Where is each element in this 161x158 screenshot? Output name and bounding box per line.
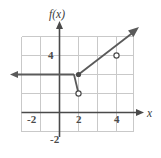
open-circle-lower-endpoint (76, 91, 81, 96)
x-axis-label: x (146, 107, 153, 119)
y-axis-label: f(x) (49, 8, 65, 21)
y-tick-label-neg2: -2 (50, 133, 60, 145)
graph-screenshot: -2 2 4 4 -2 f(x) x (0, 0, 161, 158)
x-tick-label-2: 2 (76, 113, 82, 125)
y-axis (56, 21, 63, 137)
function-graph: -2 2 4 4 -2 f(x) x (0, 0, 161, 158)
x-tick-label-neg2: -2 (27, 113, 37, 125)
x-axis (22, 109, 145, 116)
function-ray-rising (79, 27, 140, 75)
closed-dot-endpoint (76, 72, 81, 77)
open-circle-upper-endpoint (114, 53, 119, 58)
function-ray-left (10, 71, 74, 78)
y-tick-label-4: 4 (48, 49, 54, 61)
x-tick-label-4: 4 (114, 113, 120, 125)
